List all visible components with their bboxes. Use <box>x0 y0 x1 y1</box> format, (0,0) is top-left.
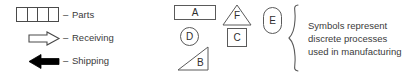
caption-line: used in manufacturing <box>308 45 401 58</box>
hollow-right-arrow-icon <box>28 31 60 46</box>
receiving-dash: – <box>63 33 68 43</box>
legend-label-shipping: Shipping <box>72 56 109 66</box>
curly-brace <box>288 4 302 72</box>
process-symbol-c-letter: C <box>233 32 240 43</box>
process-symbol-b: B <box>177 46 209 71</box>
solid-left-arrow-icon <box>28 54 60 69</box>
shipping-dash: – <box>63 56 68 66</box>
curly-brace-icon <box>288 4 302 72</box>
legend-figure: – Parts – Receiving – Shipping A D B F <box>0 0 416 76</box>
process-symbol-f: F <box>222 4 252 26</box>
process-symbol-d: D <box>180 27 199 46</box>
caption-line: Symbols represent <box>308 19 401 32</box>
parts-cell <box>17 8 28 21</box>
legend-label-parts: Parts <box>72 10 94 20</box>
parts-cell <box>49 8 59 21</box>
legend-label-receiving: Receiving <box>72 33 114 43</box>
process-symbol-d-letter: D <box>186 31 193 42</box>
process-symbol-c: C <box>227 28 247 47</box>
caption-block: Symbols represent discrete processes use… <box>308 19 401 58</box>
process-symbol-f-letter: F <box>234 11 240 21</box>
process-symbol-e: E <box>263 7 282 34</box>
process-symbol-a: A <box>174 5 216 20</box>
process-symbol-a-letter: A <box>192 7 199 18</box>
parts-cell <box>28 8 39 21</box>
parts-cell <box>38 8 49 21</box>
shipping-symbol <box>28 54 60 69</box>
right-triangle-icon <box>177 46 209 71</box>
parts-symbol <box>16 7 59 22</box>
process-symbol-e-letter: E <box>269 15 276 26</box>
parts-dash: – <box>63 10 68 20</box>
receiving-symbol <box>28 31 60 46</box>
process-symbol-b-letter: B <box>197 58 204 68</box>
caption-line: discrete processes <box>308 32 401 45</box>
